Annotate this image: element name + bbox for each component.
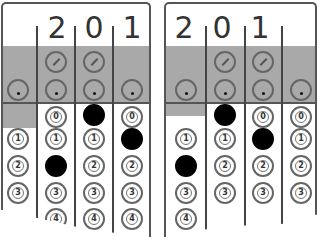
- grid-in-answer-left: 2 0 1 1 2 3 0 1 2 3 4 0 1 2 3 4 0 1 2 3 …: [1, 2, 151, 237]
- bubble-2-filled[interactable]: 2: [175, 155, 197, 177]
- bubble-0-filled[interactable]: 0: [83, 104, 105, 126]
- slash-bubble[interactable]: [45, 51, 67, 73]
- bubble-1[interactable]: 1: [83, 128, 105, 150]
- bubble-2[interactable]: 2: [121, 155, 143, 177]
- dot-icon: [131, 92, 134, 95]
- dot-icon: [17, 92, 20, 95]
- answer-header: 2 0 1: [166, 4, 315, 48]
- bubble-3[interactable]: 3: [290, 182, 312, 204]
- bubble-0[interactable]: 0: [290, 106, 312, 128]
- decimal-bubble[interactable]: [45, 79, 67, 101]
- column-divider: [244, 26, 246, 237]
- bubble-1[interactable]: 1: [290, 128, 312, 150]
- bubble-4[interactable]: 4: [175, 208, 197, 230]
- column-divider: [36, 26, 38, 236]
- dot-icon: [185, 92, 188, 95]
- bubble-3[interactable]: 3: [252, 182, 274, 204]
- written-digit: 0: [204, 12, 240, 44]
- bubble-1[interactable]: 1: [214, 128, 236, 150]
- bubble-3[interactable]: 3: [121, 182, 143, 204]
- bubble-2-filled[interactable]: 2: [45, 155, 67, 177]
- decimal-bubble[interactable]: [7, 79, 29, 101]
- decimal-bubble[interactable]: [290, 79, 312, 101]
- slash-icon: [259, 58, 267, 66]
- slash-bubble[interactable]: [252, 51, 274, 73]
- shaded-cell: [3, 104, 36, 128]
- column-divider: [205, 26, 207, 237]
- bubble-0[interactable]: 0: [121, 106, 143, 128]
- bubble-0[interactable]: 0: [252, 106, 274, 128]
- bubble-1-filled[interactable]: 1: [252, 128, 274, 150]
- written-digit: 1: [242, 12, 278, 44]
- bubble-0[interactable]: 0: [45, 106, 67, 128]
- dot-icon: [224, 92, 227, 95]
- answer-header: 2 0 1: [3, 4, 149, 48]
- bubble-3[interactable]: 3: [83, 182, 105, 204]
- slash-icon: [90, 58, 98, 66]
- slash-bubble[interactable]: [214, 51, 236, 73]
- slash-bubble[interactable]: [83, 51, 105, 73]
- column-divider: [74, 26, 76, 237]
- dot-icon: [262, 92, 265, 95]
- bubble-4[interactable]: 4: [83, 208, 105, 230]
- bubble-3[interactable]: 3: [214, 182, 236, 204]
- dot-icon: [55, 92, 58, 95]
- dot-icon: [93, 92, 96, 95]
- column-divider: [112, 26, 114, 237]
- bubble-2[interactable]: 2: [252, 155, 274, 177]
- written-digit: 0: [76, 12, 112, 44]
- bubble-3[interactable]: 3: [175, 182, 197, 204]
- bubble-3[interactable]: 3: [45, 182, 67, 204]
- written-digit: 2: [166, 12, 202, 44]
- bubble-2[interactable]: 2: [83, 155, 105, 177]
- bubble-2[interactable]: 2: [290, 155, 312, 177]
- decimal-bubble[interactable]: [121, 79, 143, 101]
- bubble-1-filled[interactable]: 1: [121, 128, 143, 150]
- bubble-1[interactable]: 1: [7, 128, 29, 150]
- decimal-bubble[interactable]: [175, 79, 197, 101]
- decimal-bubble[interactable]: [214, 79, 236, 101]
- decimal-bubble[interactable]: [252, 79, 274, 101]
- bubble-0-filled[interactable]: 0: [214, 104, 236, 126]
- written-digit: 1: [114, 12, 150, 44]
- bubble-2[interactable]: 2: [214, 155, 236, 177]
- written-digit: 2: [39, 12, 75, 44]
- column-divider: [281, 26, 283, 226]
- shaded-cell: [166, 104, 205, 116]
- decimal-bubble[interactable]: [83, 79, 105, 101]
- slash-icon: [52, 58, 60, 66]
- bubble-3[interactable]: 3: [7, 182, 29, 204]
- grid-in-answer-right: 2 0 1 1 2 3 4 0 1 2 3 0 1 2 3 0 1 2 3: [164, 2, 317, 237]
- bubble-4[interactable]: 4: [45, 208, 67, 230]
- bubble-1[interactable]: 1: [45, 128, 67, 150]
- bubble-2[interactable]: 2: [7, 155, 29, 177]
- bubble-4[interactable]: 4: [121, 208, 143, 230]
- bubble-1[interactable]: 1: [175, 128, 197, 150]
- slash-icon: [221, 58, 229, 66]
- dot-icon: [300, 92, 303, 95]
